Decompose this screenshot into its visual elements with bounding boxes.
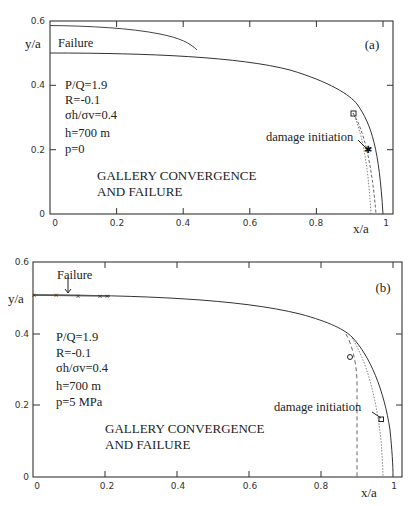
x-axis-label: x/a [361,485,377,500]
x-tick-label: 0.6 [243,218,258,228]
y-tick-label: 0.4 [15,329,30,339]
chart-panel-a: 0 0.2 0.4 0.6 0.8 1 0 0.2 0.4 0.6 y/a x/… [25,16,393,236]
param-h: h=700 m [65,126,110,140]
failure-label: Failure [58,36,94,50]
param-sigma-ratio: σh/σv=0.4 [65,108,118,122]
param-p: p=0 [65,142,85,156]
x-tick-label: 0.2 [110,218,124,228]
y-axis-label: y/a [25,36,41,51]
x-tick-label: 0.2 [100,481,114,491]
param-pq: P/Q=1.9 [56,330,98,344]
y-tick-label: 0 [39,209,45,219]
x-tick-label: 1 [383,218,389,228]
svg-text:×: × [104,291,109,301]
gallery-title-line1: GALLERY CONVERGENCE [97,168,257,183]
panel-label: (a) [365,37,379,52]
param-r: R=-0.1 [56,346,91,360]
circle-marker [348,355,353,360]
param-sigma-ratio: σh/σv=0.4 [56,361,109,375]
damage-arrow [372,412,381,418]
x-tick-label: 0 [52,218,58,228]
y-tick-label: 0.6 [31,16,46,26]
gallery-title-line1: GALLERY CONVERGENCE [105,421,265,436]
svg-text:×: × [97,291,102,301]
y-tick-label: 0.2 [31,145,45,155]
damage-initiation-label: damage initiation [266,130,354,144]
svg-text:×: × [75,291,80,301]
x-tick-label: 0 [34,481,40,491]
dashed-contour-curve [353,113,376,214]
panel-label: (b) [375,280,390,295]
y-tick-label: 0.6 [15,257,30,267]
figure: 0 0.2 0.4 0.6 0.8 1 0 0.2 0.4 0.6 y/a x/… [0,0,416,506]
x-tick-label: 0.6 [243,481,258,491]
star-marker: ✱ [364,144,372,155]
x-axis-label: x/a [353,221,369,236]
y-tick-label: 0.2 [15,400,29,410]
gallery-title-line2: AND FAILURE [105,437,190,452]
damage-initiation-label: damage initiation [274,400,362,414]
x-tick-label: 0.4 [176,218,191,228]
param-h: h=700 m [56,379,101,393]
failure-label: Failure [57,268,93,282]
x-tick-label: 1 [391,481,397,491]
x-tick-label: 0.4 [171,481,186,491]
param-p: p=5 MPa [56,395,103,409]
y-tick-label: 0.4 [31,80,46,90]
y-tick-label: 0 [23,472,29,482]
x-tick-label: 0.8 [309,218,324,228]
y-axis-label: y/a [8,291,24,306]
gallery-title-line2: AND FAILURE [97,184,182,199]
x-tick-label: 0.8 [314,481,329,491]
chart-panel-b: 0 0.2 0.4 0.6 0.8 1 0 0.2 0.4 0.6 y/a x/… [8,257,402,500]
param-pq: P/Q=1.9 [65,78,107,92]
dotted-contour-curve [353,113,371,214]
svg-text:×: × [53,290,58,300]
param-r: R=-0.1 [65,93,100,107]
svg-text:×: × [31,290,36,300]
